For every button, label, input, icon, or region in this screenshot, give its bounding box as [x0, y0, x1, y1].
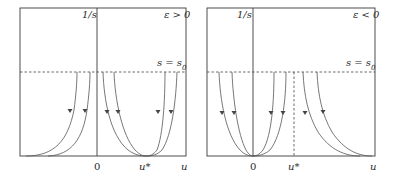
- arrow-down-icon: [169, 110, 174, 114]
- panel-right-condition-label: ε < 0: [353, 9, 380, 20]
- trajectory-curve: [48, 72, 90, 156]
- trajectory-curve: [114, 72, 146, 156]
- panel-left: 1/s ε > 0 s = s0 0 u* u: [20, 8, 191, 172]
- arrow-down-icon: [156, 110, 161, 114]
- panel-left-threshold-label: s = s0: [157, 57, 187, 72]
- trajectory-curve: [146, 72, 177, 156]
- trajectory-curve: [253, 72, 286, 156]
- trajectory-curve: [317, 72, 372, 156]
- panel-right-y-axis-label: 1/s: [237, 9, 252, 20]
- panel-right: 1/s ε < 0 s = s0 0 u* u: [207, 8, 380, 172]
- arrow-down-icon: [269, 111, 274, 115]
- arrow-down-icon: [303, 111, 308, 115]
- panel-left-x-axis-label: u: [181, 161, 187, 172]
- trajectory-curve: [26, 72, 77, 156]
- panel-left-tick-zero: 0: [94, 161, 100, 172]
- panel-right-x-axis-label: u: [370, 161, 376, 172]
- trajectory-curve: [103, 72, 146, 156]
- trajectory-curve: [303, 72, 360, 156]
- arrow-down-icon: [281, 111, 286, 115]
- arrow-down-icon: [68, 109, 73, 113]
- arrow-down-icon: [321, 110, 326, 114]
- trajectory-curve: [146, 72, 165, 156]
- phase-diagram-figure: 1/s ε > 0 s = s0 0 u* u 1/s ε < 0 s = s0…: [0, 0, 394, 178]
- panel-left-y-axis-label: 1/s: [82, 9, 97, 20]
- panel-right-tick-zero: 0: [250, 161, 256, 172]
- panel-right-tick-ustar: u*: [288, 161, 299, 172]
- panel-right-threshold-label: s = s0: [346, 57, 376, 72]
- panel-left-condition-label: ε > 0: [164, 9, 191, 20]
- panel-left-tick-ustar: u*: [139, 161, 150, 172]
